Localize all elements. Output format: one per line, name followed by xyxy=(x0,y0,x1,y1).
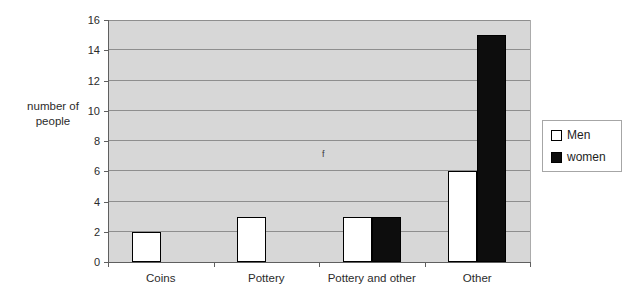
y-tick-label: 4 xyxy=(68,196,100,209)
x-axis-line xyxy=(108,262,531,263)
y-tick-label: 16 xyxy=(68,14,100,27)
x-category-label: Coins xyxy=(106,272,216,284)
y-axis-line xyxy=(108,20,109,263)
legend-swatch-men xyxy=(551,130,562,141)
bar-women-other xyxy=(477,35,506,262)
gridline xyxy=(108,49,530,50)
x-category-label: Pottery and other xyxy=(317,272,427,284)
stray-annotation: f xyxy=(322,149,325,159)
legend-item-men: Men xyxy=(551,128,613,142)
bar-men-pottery xyxy=(237,217,266,262)
gridline xyxy=(108,110,530,111)
gridline xyxy=(108,80,530,81)
legend-label-men: Men xyxy=(567,128,590,142)
bar-men-other xyxy=(448,171,477,262)
y-tick-label: 8 xyxy=(68,135,100,148)
x-tick-mark xyxy=(108,263,109,267)
legend-swatch-women xyxy=(551,152,562,163)
plot-area xyxy=(108,20,531,262)
legend: Men women xyxy=(542,120,622,172)
legend-label-women: women xyxy=(567,150,606,164)
y-tick-label: 6 xyxy=(68,165,100,178)
bar-chart: number of people f Men women 02468101214… xyxy=(0,0,637,300)
gridline xyxy=(108,20,530,21)
y-tick-label: 12 xyxy=(68,75,100,88)
y-tick-label: 2 xyxy=(68,226,100,239)
x-tick-mark xyxy=(214,263,215,267)
legend-item-women: women xyxy=(551,150,613,164)
gridline xyxy=(108,140,530,141)
x-tick-mark xyxy=(425,263,426,267)
bar-men-pottery-and-other xyxy=(343,217,372,262)
bar-men-coins xyxy=(132,232,161,262)
x-category-label: Pottery xyxy=(211,272,321,284)
x-category-label: Other xyxy=(422,272,532,284)
bar-women-pottery-and-other xyxy=(372,217,401,262)
y-tick-label: 10 xyxy=(68,105,100,118)
x-tick-mark xyxy=(530,263,531,267)
y-tick-label: 0 xyxy=(68,256,100,269)
y-axis-title-line2: people xyxy=(36,115,71,127)
y-tick-label: 14 xyxy=(68,44,100,57)
x-tick-mark xyxy=(319,263,320,267)
